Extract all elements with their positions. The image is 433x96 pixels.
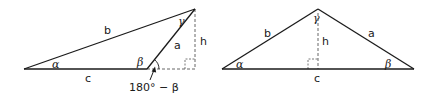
label-height-h: h <box>322 35 329 48</box>
label-side-b: b <box>264 27 271 40</box>
triangle-diagrams: b a c h α β γ 180° − β b a c h α β γ <box>0 0 433 96</box>
label-side-a: a <box>174 39 181 52</box>
label-angle-gamma: γ <box>313 12 320 25</box>
label-height-h: h <box>200 35 207 48</box>
label-angle-gamma: γ <box>178 15 185 28</box>
pointer-arrow-head <box>152 67 157 73</box>
label-side-c: c <box>314 72 320 85</box>
side-a <box>318 9 414 69</box>
label-side-c: c <box>85 72 91 85</box>
label-angle-beta: β <box>384 58 391 71</box>
label-angle-alpha: α <box>52 58 60 71</box>
side-b <box>24 9 195 69</box>
label-exterior-angle: 180° − β <box>129 81 179 94</box>
right-angle-marker <box>308 59 318 69</box>
right-angle-marker <box>185 59 195 69</box>
figure-left-obtuse-triangle: b a c h α β γ 180° − β <box>24 9 207 94</box>
label-angle-alpha: α <box>236 58 244 71</box>
label-side-b: b <box>104 24 111 37</box>
label-angle-beta: β <box>136 56 143 69</box>
label-side-a: a <box>368 27 375 40</box>
figure-right-acute-triangle: b a c h α β γ <box>222 9 414 85</box>
